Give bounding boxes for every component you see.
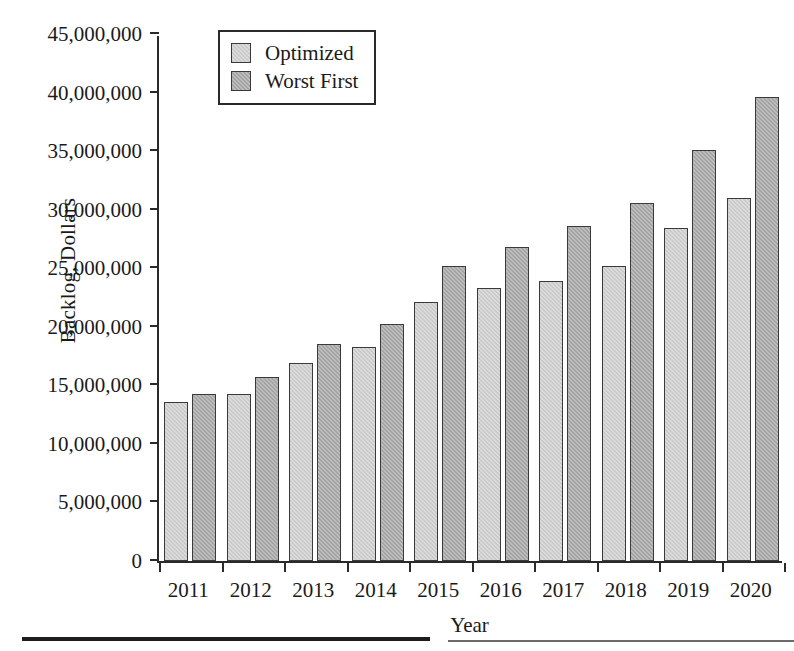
y-tick: 45,000,000 <box>150 32 159 34</box>
x-tick <box>222 563 224 572</box>
x-tick <box>409 563 411 572</box>
legend-label-worst-first: Worst First <box>265 69 358 94</box>
y-tick: 35,000,000 <box>150 149 159 151</box>
bar-2017-worst-first <box>567 226 591 561</box>
x-tick <box>659 563 661 572</box>
y-tick: 30,000,000 <box>150 208 159 210</box>
legend-swatch-optimized-icon <box>231 43 251 63</box>
bar-2017-optimized <box>539 281 563 561</box>
legend-item-worst-first: Worst First <box>231 67 358 95</box>
bar-2013-worst-first <box>317 344 341 561</box>
y-tick: 25,000,000 <box>150 266 159 268</box>
scan-artifact-rule-left <box>22 637 430 641</box>
x-tick <box>347 563 349 572</box>
x-tick <box>472 563 474 572</box>
x-tick-label-2020: 2020 <box>711 578 791 603</box>
y-tick-label: 45,000,000 <box>48 22 143 47</box>
plot-area: 05,000,00010,000,00015,000,00020,000,000… <box>157 36 782 563</box>
bar-2016-optimized <box>477 288 501 561</box>
legend-item-optimized: Optimized <box>231 39 358 67</box>
y-tick-label: 5,000,000 <box>58 490 142 515</box>
legend-swatch-worst-first-icon <box>231 71 251 91</box>
y-tick: 20,000,000 <box>150 325 159 327</box>
bar-2018-optimized <box>602 266 626 561</box>
bar-2020-optimized <box>727 198 751 561</box>
y-tick: 5,000,000 <box>150 500 159 502</box>
bar-2012-worst-first <box>255 377 279 561</box>
x-tick <box>534 563 536 572</box>
bar-2019-optimized <box>664 228 688 561</box>
y-tick: 10,000,000 <box>150 442 159 444</box>
y-tick-label: 25,000,000 <box>48 256 143 281</box>
bar-2016-worst-first <box>505 247 529 561</box>
bar-2015-worst-first <box>442 266 466 561</box>
legend-label-optimized: Optimized <box>265 41 354 66</box>
x-tick <box>284 563 286 572</box>
x-tick <box>784 563 786 572</box>
x-tick <box>159 563 161 572</box>
x-tick <box>597 563 599 572</box>
bar-chart-figure: Backlog, Dollars 05,000,00010,000,00015,… <box>0 0 794 651</box>
x-tick <box>722 563 724 572</box>
chart-legend: Optimized Worst First <box>218 30 376 105</box>
y-tick-label: 20,000,000 <box>48 315 143 340</box>
y-tick-label: 30,000,000 <box>48 198 143 223</box>
x-axis-title: Year <box>157 613 782 638</box>
bar-2014-optimized <box>352 347 376 561</box>
bar-2018-worst-first <box>630 203 654 561</box>
bar-2011-optimized <box>164 402 188 561</box>
bar-2020-worst-first <box>755 97 779 561</box>
y-tick-label: 0 <box>132 549 143 574</box>
y-tick-label: 35,000,000 <box>48 139 143 164</box>
bar-2019-worst-first <box>692 150 716 561</box>
y-tick-label: 10,000,000 <box>48 432 143 457</box>
bar-2013-optimized <box>289 363 313 561</box>
y-tick: 15,000,000 <box>150 383 159 385</box>
y-tick: 40,000,000 <box>150 91 159 93</box>
bar-2012-optimized <box>227 394 251 561</box>
y-tick-label: 40,000,000 <box>48 81 143 106</box>
scan-artifact-rule-right <box>448 640 794 642</box>
bar-2014-worst-first <box>380 324 404 561</box>
y-tick: 0 <box>150 559 159 561</box>
y-tick-label: 15,000,000 <box>48 373 143 398</box>
bar-2011-worst-first <box>192 394 216 561</box>
bar-2015-optimized <box>414 302 438 561</box>
